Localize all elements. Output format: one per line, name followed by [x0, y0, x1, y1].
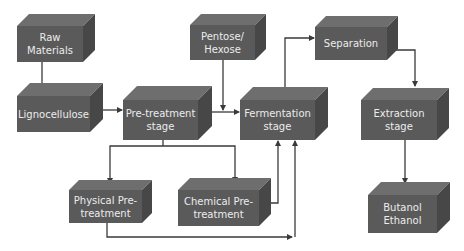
node-raw-materials — [17, 14, 95, 62]
node-lignocellulose — [17, 83, 103, 132]
edge-pretreat-to-physical — [110, 146, 163, 183]
edge-ferm-to-sep — [285, 38, 314, 92]
edge-pretreat-to-chemical — [163, 146, 235, 182]
node-chemical — [178, 178, 271, 226]
node-products — [368, 182, 450, 233]
node-pentose-hexose — [190, 14, 266, 60]
diagram-canvas — [0, 0, 464, 251]
node-pretreatment — [123, 86, 212, 140]
node-extraction — [361, 88, 449, 140]
node-separation — [315, 16, 398, 60]
node-physical — [69, 180, 152, 223]
node-fermentation — [240, 87, 328, 140]
